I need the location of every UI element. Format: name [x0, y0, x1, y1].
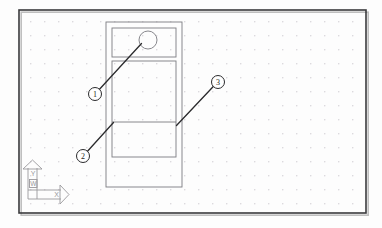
ucs-y-axis-label: Y — [31, 170, 36, 177]
callout-label-2: 2 — [81, 152, 85, 161]
drawing-viewport[interactable]: 1 2 3 Y X W — [0, 0, 382, 228]
grid-dots — [20, 11, 365, 212]
cad-scene: 1 2 3 Y X W — [0, 0, 382, 228]
callout-label-1: 1 — [93, 90, 97, 99]
callout-label-3: 3 — [216, 78, 220, 87]
ucs-x-axis-label: X — [54, 191, 59, 198]
ucs-world-label: W — [30, 180, 37, 187]
